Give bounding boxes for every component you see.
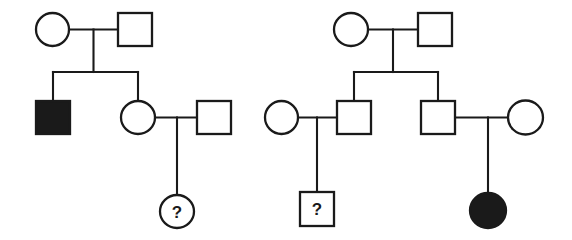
individual-left-I-2[interactable]	[118, 13, 152, 46]
individual-left-II-2[interactable]	[121, 101, 155, 134]
individual-right-II-3[interactable]	[421, 101, 455, 134]
unknown-phenotype-label: ?	[172, 203, 182, 222]
male-square[interactable]	[421, 101, 455, 134]
individual-left-II-3[interactable]	[197, 101, 231, 134]
female-circle[interactable]	[36, 13, 69, 46]
individual-left-III-1[interactable]: ?	[160, 195, 194, 228]
affected-male-square[interactable]	[36, 101, 70, 134]
pedigree-diagram: ??	[0, 0, 572, 240]
affected-female-circle[interactable]	[470, 193, 506, 228]
individual-right-III-1[interactable]: ?	[300, 192, 334, 226]
male-square[interactable]	[118, 13, 152, 46]
individual-left-II-1[interactable]	[36, 101, 70, 134]
individual-symbols-layer: ??	[36, 13, 543, 228]
individual-right-I-1[interactable]	[334, 13, 368, 46]
male-square[interactable]	[418, 13, 452, 46]
individual-right-I-2[interactable]	[418, 13, 452, 46]
male-square[interactable]	[197, 101, 231, 134]
unknown-phenotype-label: ?	[312, 200, 322, 219]
pedigree-canvas: ??	[0, 0, 572, 240]
individual-left-I-1[interactable]	[36, 13, 69, 46]
female-circle[interactable]	[508, 101, 543, 135]
female-circle[interactable]	[121, 101, 155, 134]
individual-right-II-2[interactable]	[337, 101, 371, 134]
male-square[interactable]	[337, 101, 371, 134]
individual-right-III-2[interactable]	[470, 193, 506, 228]
individual-right-II-1[interactable]	[265, 101, 298, 134]
female-circle[interactable]	[334, 13, 368, 46]
female-circle[interactable]	[265, 101, 298, 134]
individual-right-II-4[interactable]	[508, 101, 543, 135]
